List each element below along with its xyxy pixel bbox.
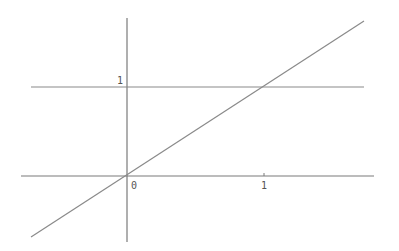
origin-label: 0 [131, 180, 137, 191]
y-tick-label-1: 1 [117, 75, 123, 86]
x-tick-label-1: 1 [261, 180, 267, 191]
diagonal-line-y-equals-x [31, 21, 364, 237]
plot-canvas: 0 1 1 [0, 0, 399, 251]
